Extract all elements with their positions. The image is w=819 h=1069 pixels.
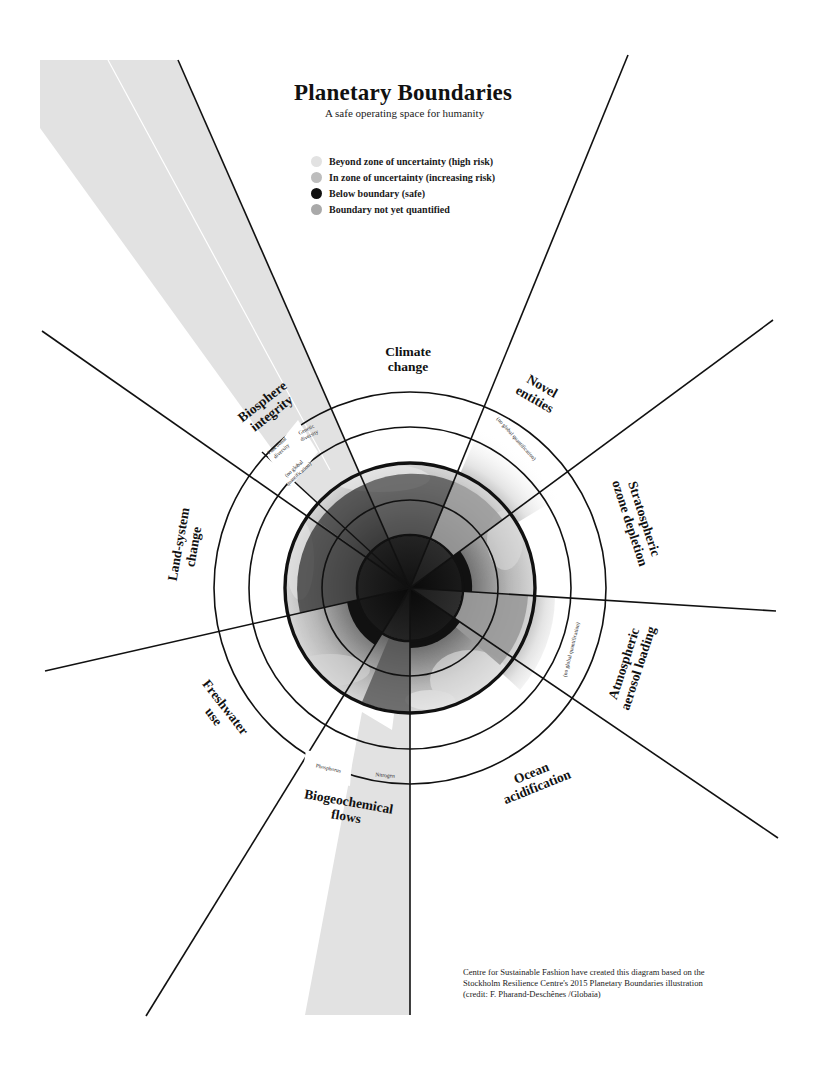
label-ocean-acidification: Ocean acidification — [495, 752, 573, 807]
page-subtitle: A safe operating space for humanity — [325, 107, 484, 119]
label-climate-change: Climate change — [385, 344, 431, 374]
credit-line: (credit: F. Pharand-Deschênes /Globaïa) — [463, 989, 763, 1000]
legend-dot-icon — [311, 156, 322, 167]
legend-item-safe: Below boundary (safe) — [311, 185, 495, 201]
svg-text:change: change — [388, 359, 429, 374]
svg-text:Climate: Climate — [385, 344, 431, 359]
svg-text:(no global quantification): (no global quantification) — [561, 621, 581, 677]
svg-text:Freshwater: Freshwater — [199, 677, 251, 738]
credit-note: Centre for Sustainable Fashion have crea… — [463, 967, 763, 1000]
credit-line: Centre for Sustainable Fashion have crea… — [463, 967, 763, 978]
label-novel-entities: Novel entities — [513, 369, 564, 416]
label-stratospheric-ozone: Stratospheric ozone depletion — [609, 474, 665, 569]
label-freshwater-use: Freshwater use — [188, 677, 252, 747]
label-atmospheric-aerosol: Atmospheric aerosol loading — [603, 620, 659, 712]
label-land-system-change: Land-system change — [165, 506, 208, 585]
legend-item-high-risk: Beyond zone of uncertainty (high risk) — [311, 153, 495, 169]
legend: Beyond zone of uncertainty (high risk) I… — [311, 153, 495, 217]
page-title: Planetary Boundaries — [294, 80, 512, 106]
legend-dot-icon — [311, 172, 322, 183]
legend-dot-icon — [311, 204, 322, 215]
legend-dot-icon — [311, 188, 322, 199]
legend-item-not-quantified: Boundary not yet quantified — [311, 201, 495, 217]
credit-line: Stockholm Resilience Centre's 2015 Plane… — [463, 978, 763, 989]
label-aerosol-no-quantification: (no global quantification) — [561, 621, 581, 677]
legend-item-increasing-risk: In zone of uncertainty (increasing risk) — [311, 169, 495, 185]
